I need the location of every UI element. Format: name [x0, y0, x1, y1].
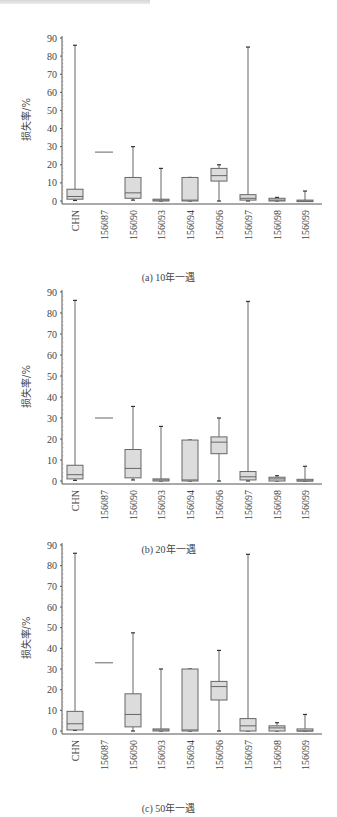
box-156096	[211, 418, 227, 481]
box-156099	[297, 466, 313, 481]
box-156096	[211, 165, 227, 201]
x-category-label: 156090	[128, 740, 139, 770]
x-category-label: 156097	[243, 490, 254, 520]
caption-c: (c) 50年一遇	[0, 800, 337, 815]
y-axis-label: 损失率/%	[20, 98, 32, 141]
y-tick-label: 50	[47, 105, 57, 116]
box-156097	[240, 301, 256, 481]
x-category-label: 156090	[128, 490, 139, 520]
y-tick-label: 10	[47, 705, 57, 716]
y-tick-label: 70	[47, 69, 57, 80]
x-category-label: 156096	[214, 490, 225, 520]
y-tick-label: 40	[47, 392, 57, 403]
box-156094	[182, 669, 198, 731]
caption-a: (a) 10年一遇	[0, 269, 337, 284]
boxplot-chart-a: 0102030405060708090损失率/%CHN1560871560901…	[0, 30, 337, 270]
box-156094	[182, 440, 198, 481]
cropped-header-text	[0, 0, 150, 4]
box-156090	[125, 147, 141, 200]
y-tick-label: 20	[47, 159, 57, 170]
box-156098	[269, 476, 285, 481]
y-tick-label: 10	[47, 177, 57, 188]
y-tick-label: 30	[47, 413, 57, 424]
x-category-label: 156087	[99, 490, 110, 520]
y-tick-label: 90	[47, 33, 57, 44]
y-axis-label: 损失率/%	[20, 617, 32, 660]
box-156098	[269, 723, 285, 731]
y-tick-label: 80	[47, 560, 57, 571]
x-category-label: 156099	[300, 490, 311, 520]
y-tick-label: 0	[52, 196, 57, 207]
x-category-label: 156099	[300, 740, 311, 770]
box-156090	[125, 633, 141, 731]
x-category-label: 156098	[272, 210, 283, 240]
box-156099	[297, 714, 313, 731]
y-tick-label: 70	[47, 329, 57, 340]
x-category-label: 156087	[99, 210, 110, 240]
y-tick-label: 30	[47, 141, 57, 152]
box-156093	[153, 426, 169, 481]
box-CHN	[67, 45, 83, 200]
x-category-label: 156099	[300, 210, 311, 240]
box-156099	[297, 191, 313, 202]
box-156097	[240, 47, 256, 201]
y-tick-label: 50	[47, 371, 57, 382]
x-category-label: CHN	[70, 740, 81, 761]
y-tick-label: 0	[52, 726, 57, 737]
x-category-label: 156094	[185, 210, 196, 240]
x-category-label: 156094	[185, 740, 196, 770]
x-category-label: 156098	[272, 490, 283, 520]
y-tick-label: 50	[47, 622, 57, 633]
y-tick-label: 60	[47, 87, 57, 98]
y-tick-label: 20	[47, 434, 57, 445]
x-category-label: 156097	[243, 210, 254, 240]
x-category-label: 156097	[243, 740, 254, 770]
x-category-label: 156098	[272, 740, 283, 770]
x-category-label: 156090	[128, 210, 139, 240]
x-category-label: CHN	[70, 210, 81, 231]
x-category-label: 156093	[156, 490, 167, 520]
y-tick-label: 60	[47, 350, 57, 361]
boxplot-panel-c: 0102030405060708090损失率/%CHN1560871560901…	[0, 537, 337, 777]
y-tick-label: 60	[47, 602, 57, 613]
y-tick-label: 30	[47, 664, 57, 675]
box-156097	[240, 554, 256, 731]
box-CHN	[67, 300, 83, 480]
box-156094	[182, 177, 198, 201]
y-tick-label: 0	[52, 476, 57, 487]
x-category-label: 156096	[214, 740, 225, 770]
y-tick-label: 80	[47, 51, 57, 62]
box-156096	[211, 650, 227, 731]
boxplot-chart-b: 0102030405060708090损失率/%CHN1560871560901…	[0, 284, 337, 524]
boxplot-chart-c: 0102030405060708090损失率/%CHN1560871560901…	[0, 537, 337, 777]
box-CHN	[67, 553, 83, 730]
x-category-label: 156096	[214, 210, 225, 240]
boxplot-panel-a: 0102030405060708090损失率/%CHN1560871560901…	[0, 30, 337, 270]
y-tick-label: 80	[47, 308, 57, 319]
x-category-label: 156093	[156, 210, 167, 240]
box-156093	[153, 669, 169, 731]
y-tick-label: 40	[47, 643, 57, 654]
x-category-label: 156094	[185, 490, 196, 520]
box-156090	[125, 406, 141, 480]
y-tick-label: 70	[47, 581, 57, 592]
y-tick-label: 40	[47, 123, 57, 134]
x-category-label: CHN	[70, 490, 81, 511]
y-tick-label: 10	[47, 455, 57, 466]
boxplot-panel-b: 0102030405060708090损失率/%CHN1560871560901…	[0, 284, 337, 524]
y-tick-label: 90	[47, 540, 57, 551]
x-category-label: 156093	[156, 740, 167, 770]
box-156098	[269, 197, 285, 201]
box-156093	[153, 168, 169, 201]
y-tick-label: 90	[47, 287, 57, 298]
y-axis-label: 损失率/%	[20, 365, 32, 408]
y-tick-label: 20	[47, 684, 57, 695]
x-category-label: 156087	[99, 740, 110, 770]
